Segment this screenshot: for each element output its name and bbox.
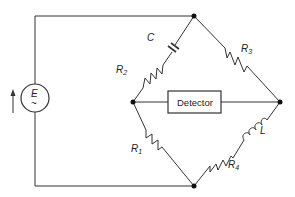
wire-r1-upper — [133, 102, 146, 130]
r2-label: R2 — [116, 64, 127, 76]
wire-c-top — [175, 16, 194, 45]
node-left — [131, 100, 136, 105]
wire-r4-lower — [194, 166, 210, 186]
resistor-r1 — [146, 130, 162, 150]
node-bottom — [192, 184, 197, 189]
node-right — [278, 100, 283, 105]
wire-r2-lower — [133, 88, 143, 102]
r1-label: R1 — [131, 143, 142, 155]
r3-label: R3 — [241, 43, 252, 55]
node-top — [192, 14, 197, 19]
inductor-label: L — [260, 125, 266, 136]
wire-bottom — [35, 112, 194, 186]
r4-label: R4 — [228, 159, 239, 171]
wire-r3-upper — [194, 16, 225, 48]
resistor-r2 — [143, 65, 163, 88]
capacitor-c-plate2 — [171, 43, 179, 49]
wire-r3-lower — [247, 66, 280, 102]
wire-top — [35, 16, 194, 84]
capacitor-label: C — [147, 32, 155, 43]
detector-label: Detector — [177, 97, 213, 108]
wire-r4-l — [233, 140, 244, 158]
wire-r1-lower — [162, 147, 194, 186]
wire-l-upper — [267, 102, 280, 120]
bridge-circuit-diagram: E ~ Detector C R2 R3 R1 R4 L — [0, 0, 295, 197]
current-arrow-icon — [11, 89, 16, 96]
wire-r2-c — [163, 52, 172, 65]
ac-tilde-icon: ~ — [31, 98, 37, 109]
capacitor-c-plate1 — [168, 46, 176, 52]
